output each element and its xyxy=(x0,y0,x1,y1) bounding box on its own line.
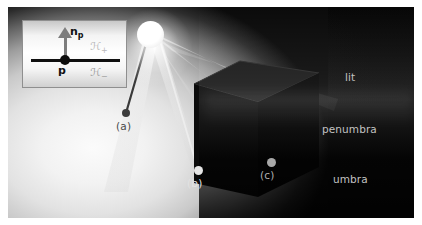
tangent-plane-inset: np p ℋ+ ℋ− xyxy=(22,20,127,88)
rendered-shadow-scene: (a) (b) (c) lit penumbra umbra np p ℋ+ ℋ… xyxy=(8,7,414,218)
point-a-dot xyxy=(122,109,130,117)
point-c-label: (c) xyxy=(260,169,275,181)
zone-label-umbra: umbra xyxy=(333,173,368,185)
point-b-dot xyxy=(194,166,203,175)
halfspace-upper-label: ℋ+ xyxy=(90,40,108,55)
normal-vector-symbol: n xyxy=(70,25,78,38)
halfspace-lower-symbol: ℋ xyxy=(90,66,101,79)
halfspace-lower-subscript: − xyxy=(101,72,108,81)
halfspace-upper-subscript: + xyxy=(101,46,108,55)
point-a-label: (a) xyxy=(116,120,131,132)
point-p-label: p xyxy=(58,64,66,77)
halfspace-lower-label: ℋ− xyxy=(90,66,108,81)
light-source xyxy=(137,21,164,48)
zone-label-lit: lit xyxy=(345,71,355,83)
normal-vector-subscript: p xyxy=(78,31,84,40)
tangent-plane-line xyxy=(31,59,120,62)
point-b-label: (b) xyxy=(187,177,202,189)
normal-vector-label: np xyxy=(70,25,84,40)
figure-page: (a) (b) (c) lit penumbra umbra np p ℋ+ ℋ… xyxy=(0,0,422,225)
zone-label-penumbra: penumbra xyxy=(322,123,377,135)
penumbra-soft-edge xyxy=(204,93,414,127)
halfspace-upper-symbol: ℋ xyxy=(90,40,101,53)
point-c-dot xyxy=(267,158,276,167)
